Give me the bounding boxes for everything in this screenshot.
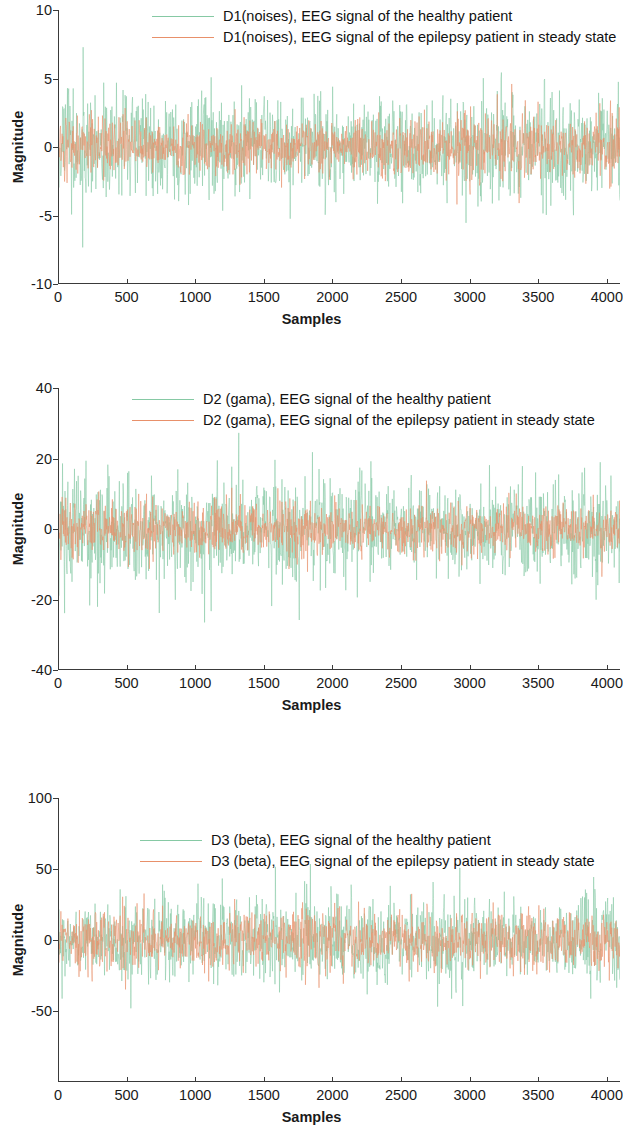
- x-axis-line-d3: [58, 1081, 620, 1082]
- legend-d1: D1(noises), EEG signal of the healthy pa…: [152, 6, 616, 48]
- y-axis-title-d3: Magnitude: [10, 904, 26, 977]
- legend-label: D3 (beta), EEG signal of the epilepsy pa…: [211, 854, 595, 869]
- y-tick-d2-4: [53, 670, 58, 671]
- x-tick-label-d2-6: 3000: [453, 675, 485, 691]
- legend-entry-d2-healthy: D2 (gama), EEG signal of the healthy pat…: [132, 389, 595, 410]
- y-tick-label-d1-1: 5: [44, 71, 52, 87]
- legend-swatch-line-icon: [140, 861, 202, 862]
- x-tick-label-d3-8: 4000: [591, 1087, 623, 1103]
- x-tick-label-d3-4: 2000: [316, 1087, 348, 1103]
- legend-d2: D2 (gama), EEG signal of the healthy pat…: [132, 389, 595, 431]
- x-tick-d1-4: [332, 279, 333, 284]
- x-axis-line-d2: [58, 669, 620, 670]
- x-tick-d3-2: [195, 1077, 196, 1082]
- y-tick-label-d2-0: 40: [36, 380, 52, 396]
- x-tick-d1-2: [195, 279, 196, 284]
- y-tick-label-d1-3: -5: [39, 208, 52, 224]
- legend-swatch-line-icon: [152, 37, 214, 38]
- trace-d3-epilepsy: [58, 894, 620, 990]
- legend-label: D2 (gama), EEG signal of the epilepsy pa…: [203, 413, 595, 428]
- legend-label: D1(noises), EEG signal of the epilepsy p…: [223, 30, 616, 45]
- y-tick-label-d1-2: 0: [44, 139, 52, 155]
- chart-panel-d3: Magnitude Samples D3 (beta), EEG signal …: [0, 790, 623, 1134]
- x-axis-title-d2: Samples: [0, 697, 623, 713]
- x-axis-line-d1: [58, 283, 620, 284]
- x-tick-d1-8: [607, 279, 608, 284]
- x-tick-d3-0: [58, 1077, 59, 1082]
- legend-entry-d2-epilepsy: D2 (gama), EEG signal of the epilepsy pa…: [132, 410, 595, 431]
- y-tick-label-d2-3: -20: [31, 592, 52, 608]
- chart-panel-d1: Magnitude Samples D1(noises), EEG signal…: [0, 0, 623, 330]
- y-tick-label-d2-4: -40: [31, 662, 52, 678]
- y-tick-d1-3: [53, 216, 58, 217]
- y-tick-d2-0: [53, 388, 58, 389]
- y-axis-line-d3: [58, 798, 59, 1082]
- legend-label: D1(noises), EEG signal of the healthy pa…: [223, 9, 512, 24]
- y-tick-d2-2: [53, 529, 58, 530]
- y-tick-label-d3-3: -50: [31, 1003, 52, 1019]
- legend-swatch-line-icon: [132, 420, 194, 421]
- x-tick-d2-5: [401, 665, 402, 670]
- eeg-wavelet-figure: Magnitude Samples D1(noises), EEG signal…: [0, 0, 623, 1134]
- x-tick-label-d2-3: 1500: [248, 675, 280, 691]
- x-tick-label-d2-5: 2500: [385, 675, 417, 691]
- x-tick-label-d2-8: 4000: [591, 675, 623, 691]
- x-axis-title-d1: Samples: [0, 311, 623, 327]
- x-tick-d3-8: [607, 1077, 608, 1082]
- y-tick-label-d2-1: 20: [36, 451, 52, 467]
- y-tick-label-d2-2: 0: [44, 521, 52, 537]
- y-tick-label-d3-2: 0: [44, 932, 52, 948]
- y-axis-title-d1: Magnitude: [10, 111, 26, 184]
- y-tick-d1-4: [53, 284, 58, 285]
- x-tick-label-d3-6: 3000: [453, 1087, 485, 1103]
- y-tick-label-d3-1: 50: [36, 861, 52, 877]
- y-tick-label-d1-0: 10: [36, 2, 52, 18]
- x-tick-d2-7: [538, 665, 539, 670]
- legend-swatch-line-icon: [152, 16, 214, 17]
- x-tick-label-d3-0: 0: [54, 1087, 62, 1103]
- signal-traces-d1: [58, 10, 620, 284]
- legend-entry-d1-epilepsy: D1(noises), EEG signal of the epilepsy p…: [152, 27, 616, 48]
- y-tick-d3-0: [53, 798, 58, 799]
- legend-entry-d3-healthy: D3 (beta), EEG signal of the healthy pat…: [140, 830, 595, 851]
- x-tick-label-d1-8: 4000: [591, 289, 623, 305]
- x-tick-label-d3-5: 2500: [385, 1087, 417, 1103]
- legend-swatch-line-icon: [140, 840, 202, 841]
- x-tick-d1-7: [538, 279, 539, 284]
- x-tick-label-d2-2: 1000: [179, 675, 211, 691]
- y-axis-title-d2: Magnitude: [10, 493, 26, 566]
- y-tick-d3-2: [53, 940, 58, 941]
- x-tick-label-d1-0: 0: [54, 289, 62, 305]
- y-tick-label-d1-4: -10: [31, 276, 52, 292]
- x-tick-label-d1-4: 2000: [316, 289, 348, 305]
- x-tick-label-d2-1: 500: [114, 675, 138, 691]
- y-tick-d1-2: [53, 147, 58, 148]
- x-tick-label-d3-2: 1000: [179, 1087, 211, 1103]
- x-axis-title-d3: Samples: [0, 1109, 623, 1125]
- chart-panel-d2: Magnitude Samples D2 (gama), EEG signal …: [0, 380, 623, 720]
- x-tick-d1-1: [127, 279, 128, 284]
- x-tick-label-d1-1: 500: [114, 289, 138, 305]
- legend-d3: D3 (beta), EEG signal of the healthy pat…: [140, 830, 595, 872]
- x-tick-d1-0: [58, 279, 59, 284]
- plot-area-d1: [58, 10, 620, 284]
- x-tick-d2-0: [58, 665, 59, 670]
- x-tick-label-d3-7: 3500: [522, 1087, 554, 1103]
- x-tick-d1-6: [470, 279, 471, 284]
- x-tick-d2-3: [264, 665, 265, 670]
- x-tick-label-d1-3: 1500: [248, 289, 280, 305]
- x-tick-d1-3: [264, 279, 265, 284]
- y-tick-d2-1: [53, 459, 58, 460]
- y-tick-d3-3: [53, 1011, 58, 1012]
- x-tick-d2-8: [607, 665, 608, 670]
- y-tick-d3-1: [53, 869, 58, 870]
- x-tick-d2-2: [195, 665, 196, 670]
- x-tick-label-d2-7: 3500: [522, 675, 554, 691]
- x-tick-d3-5: [401, 1077, 402, 1082]
- x-tick-label-d2-0: 0: [54, 675, 62, 691]
- legend-entry-d3-epilepsy: D3 (beta), EEG signal of the epilepsy pa…: [140, 851, 595, 872]
- x-tick-label-d2-4: 2000: [316, 675, 348, 691]
- legend-label: D2 (gama), EEG signal of the healthy pat…: [203, 392, 491, 407]
- y-tick-d1-1: [53, 79, 58, 80]
- x-tick-d3-4: [332, 1077, 333, 1082]
